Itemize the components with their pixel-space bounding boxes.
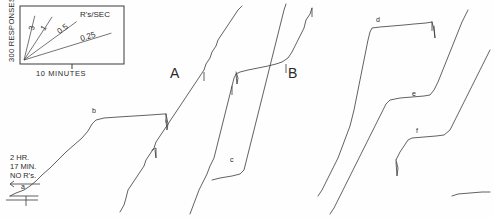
legend-y-axis-label: 300 RESPONSES xyxy=(7,0,16,62)
legend-slope-lines xyxy=(24,16,111,60)
segment-label-A: A xyxy=(170,65,180,81)
record-trace xyxy=(330,10,468,214)
legend-rate-units: R's/SEC xyxy=(80,10,110,19)
legend-slope-label: 0.25 xyxy=(79,30,97,43)
session-note-line-2: 17 MIN. xyxy=(10,162,36,171)
rate-legend-inset: 300 RESPONSES 10 MINUTES R's/SEC 310.50.… xyxy=(7,0,124,78)
cumulative-record-svg: 300 RESPONSES 10 MINUTES R's/SEC 310.50.… xyxy=(0,0,494,218)
record-trace xyxy=(212,4,286,180)
legend-slope-label: 0.5 xyxy=(56,22,71,36)
event-label-c: c xyxy=(230,156,234,163)
record-trace xyxy=(452,192,490,196)
session-note-line-3: NO R's. xyxy=(10,171,36,180)
segment-label-B: B xyxy=(288,65,297,81)
record-trace xyxy=(236,72,238,84)
event-label-d: d xyxy=(376,16,380,23)
record-trace xyxy=(190,8,312,214)
record-trace xyxy=(318,22,432,196)
record-trace xyxy=(120,6,242,212)
event-label-b: b xyxy=(92,107,96,114)
session-note-line-1: 2 HR. xyxy=(10,153,29,162)
record-trace xyxy=(396,50,490,160)
record-trace xyxy=(152,148,156,158)
record-trace xyxy=(432,22,435,38)
record-trace xyxy=(396,160,398,176)
legend-slope-line xyxy=(24,17,52,60)
session-note: 2 HR. 17 MIN. NO R's. xyxy=(6,153,40,206)
event-label-a: a xyxy=(21,183,25,190)
figure-canvas: 300 RESPONSES 10 MINUTES R's/SEC 310.50.… xyxy=(0,0,494,218)
legend-x-axis-label: 10 MINUTES xyxy=(36,69,86,78)
legend-slope-line xyxy=(24,33,111,60)
legend-slope-label: 3 xyxy=(27,24,37,31)
event-label-e: e xyxy=(412,90,416,97)
event-label-f: f xyxy=(416,127,418,134)
